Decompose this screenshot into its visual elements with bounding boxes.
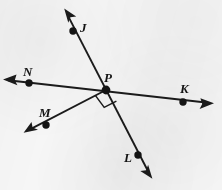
point-n bbox=[25, 79, 32, 86]
label-point-j: J bbox=[80, 21, 87, 34]
label-point-l: L bbox=[124, 151, 132, 164]
point-l bbox=[134, 151, 141, 158]
label-point-p: P bbox=[104, 71, 112, 84]
label-point-n: N bbox=[23, 65, 32, 78]
geometry-figure: J N P K M L bbox=[0, 0, 222, 190]
ray-p-m bbox=[24, 90, 106, 133]
arrowhead-n-end bbox=[3, 75, 17, 86]
point-j bbox=[69, 27, 76, 34]
label-point-m: M bbox=[39, 106, 51, 119]
arrowhead-k-end bbox=[200, 98, 214, 109]
point-m bbox=[42, 121, 49, 128]
point-p bbox=[102, 86, 111, 95]
label-point-k: K bbox=[180, 82, 189, 95]
point-k bbox=[179, 98, 186, 105]
